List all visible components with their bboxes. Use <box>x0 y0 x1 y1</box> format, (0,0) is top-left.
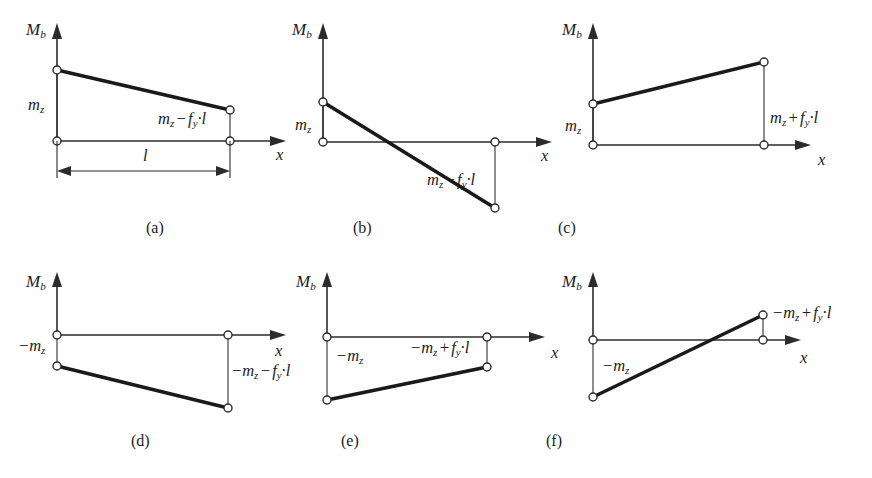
panel-a-dimension-label: l <box>143 148 148 165</box>
panel-e-moment-axis-label: Mb <box>296 273 316 292</box>
panel-c-start-value-label: mz <box>565 118 581 136</box>
panel-d-graphic <box>30 272 310 432</box>
panel-e-end-value-label: −mz + fy·l <box>410 340 469 358</box>
figure-canvas: Mb mz mz − fy·l l x (a) Mb mz mz − fy·l … <box>0 0 872 478</box>
panel-d-start-value-label: −mz <box>18 338 45 356</box>
panel-e-x-axis-label: x <box>551 345 558 362</box>
panel-b-caption: (b) <box>353 219 372 237</box>
panel-c-moment-axis-label: Mb <box>562 21 582 40</box>
panel-a-start-value-label: mz <box>28 97 44 115</box>
panel-f-graphic <box>566 272 856 432</box>
panel-d-moment-axis-label: Mb <box>26 273 46 292</box>
panel-b-end-value-label: mz − fy·l <box>427 172 475 190</box>
panel-b-x-axis-label: x <box>541 148 548 165</box>
panel-a-caption: (a) <box>146 219 164 237</box>
panel-f-moment-axis-label: Mb <box>562 273 582 292</box>
panel-e-start-value-label: −mz <box>336 348 363 366</box>
panel-f-x-axis-label: x <box>800 350 807 367</box>
panel-e-caption: (e) <box>341 432 359 450</box>
panel-c-x-axis-label: x <box>818 152 825 169</box>
panel-d-end-value-label: −mz − fy·l <box>231 363 290 381</box>
panel-a-end-value-label: mz − fy·l <box>158 111 206 129</box>
panel-b-start-value-label: mz <box>295 117 311 135</box>
panel-d-x-axis-label: x <box>275 343 282 360</box>
panel-d-caption: (d) <box>131 432 150 450</box>
panel-f-start-value-label: −mz <box>602 358 629 376</box>
panel-f-caption: (f) <box>546 432 562 450</box>
panel-f-end-value-label: −mz + fy·l <box>772 305 831 323</box>
panel-a-moment-axis-label: Mb <box>26 21 46 40</box>
panel-c-caption: (c) <box>558 219 576 237</box>
panel-b-moment-axis-label: Mb <box>292 21 312 40</box>
panel-a-x-axis-label: x <box>276 147 283 164</box>
panel-c-end-value-label: mz + fy·l <box>770 110 818 128</box>
